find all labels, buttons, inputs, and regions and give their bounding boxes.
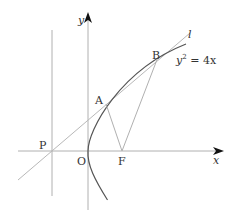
point-B-label: B xyxy=(152,49,160,62)
point-P-label: P xyxy=(39,139,47,152)
curve-equation-label: y2 = 4x xyxy=(175,53,217,67)
x-axis-label: x xyxy=(213,154,220,167)
parabola-curve xyxy=(88,44,186,200)
line-l-label: l xyxy=(188,28,192,41)
diagram-canvas: y x P O F A B l y2 = 4x xyxy=(0,0,236,218)
point-O-label: O xyxy=(77,155,86,168)
point-F-label: F xyxy=(118,155,126,168)
parabola-diagram: y x P O F A B l y2 = 4x xyxy=(0,0,236,218)
line-l xyxy=(18,33,190,180)
y-axis-label: y xyxy=(77,14,85,27)
point-A-label: A xyxy=(94,94,104,107)
segment-AF xyxy=(106,104,122,151)
